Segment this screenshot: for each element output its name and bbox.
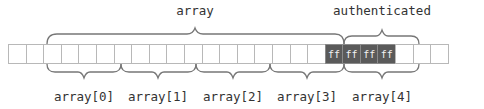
memory-cell xyxy=(202,44,221,64)
memory-cells: ffffffff xyxy=(9,44,449,64)
array-3-brace xyxy=(270,64,344,78)
memory-cell xyxy=(26,44,45,64)
authenticated-byte-cell: ff xyxy=(360,44,379,64)
array-4-label: array[4] xyxy=(352,89,412,104)
memory-cell xyxy=(430,44,449,64)
authenticated-byte-cell: ff xyxy=(325,44,344,64)
memory-cell xyxy=(290,44,309,64)
array-4-brace xyxy=(344,64,419,78)
memory-cell xyxy=(166,44,185,64)
authenticated-brace xyxy=(344,30,419,44)
memory-cell xyxy=(8,44,27,64)
array-brace xyxy=(47,28,344,44)
memory-cell xyxy=(307,44,326,64)
memory-cell xyxy=(114,44,133,64)
memory-cell xyxy=(149,44,168,64)
authenticated-byte-cell: ff xyxy=(342,44,361,64)
memory-cell xyxy=(219,44,238,64)
authenticated-byte-cell: ff xyxy=(377,44,396,64)
array-0-label: array[0] xyxy=(54,89,114,104)
memory-cell xyxy=(254,44,273,64)
memory-cell xyxy=(78,44,97,64)
array-2-brace xyxy=(196,64,270,78)
memory-cell xyxy=(43,44,62,64)
array-1-label: array[1] xyxy=(128,89,188,104)
array-2-label: array[2] xyxy=(203,89,263,104)
memory-cell xyxy=(413,44,432,64)
memory-cell xyxy=(61,44,80,64)
memory-cell xyxy=(131,44,150,64)
array-1-brace xyxy=(121,64,196,78)
memory-cell xyxy=(184,44,203,64)
memory-layout-diagram: array authenticated ffffffff array[0] ar… xyxy=(0,0,484,109)
array-0-brace xyxy=(47,64,121,78)
memory-cell xyxy=(96,44,115,64)
memory-cell xyxy=(237,44,256,64)
memory-cell xyxy=(272,44,291,64)
memory-cell xyxy=(395,44,414,64)
array-3-label: array[3] xyxy=(277,89,337,104)
